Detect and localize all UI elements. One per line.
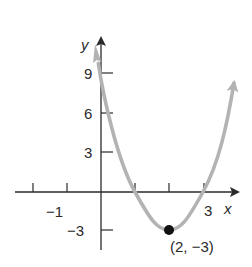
x-ticks bbox=[33, 183, 204, 192]
y-tick-label-9: 9 bbox=[84, 65, 92, 82]
vertex-label: (2, −3) bbox=[170, 238, 214, 255]
y-axis: 9 6 3 −3 y bbox=[67, 36, 113, 250]
y-axis-label: y bbox=[80, 36, 90, 53]
y-tick-label-neg3: −3 bbox=[67, 222, 84, 239]
x-tick-label-3: 3 bbox=[204, 202, 212, 219]
x-tick-label-neg1: −1 bbox=[46, 203, 63, 220]
curve-arrowhead-left bbox=[93, 44, 102, 63]
parabola-curve bbox=[98, 63, 234, 230]
y-tick-label-3: 3 bbox=[84, 144, 92, 161]
vertex-point bbox=[164, 225, 174, 235]
y-tick-label-6: 6 bbox=[84, 105, 92, 122]
x-axis-label: x bbox=[223, 200, 232, 217]
parabola-graph: −1 3 x 9 6 3 −3 y (2, −3) bbox=[0, 0, 252, 267]
